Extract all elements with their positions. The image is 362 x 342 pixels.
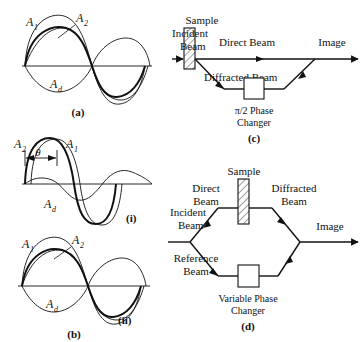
panel-a-curve-ad-upper xyxy=(25,28,148,100)
panel-c-id: (c) xyxy=(248,132,261,145)
panel-c-sample-label: Sample xyxy=(186,14,219,26)
panel-c-phase-changer-box xyxy=(244,78,264,99)
panel-a-label-ad: A xyxy=(49,77,58,91)
panel-b-i-id: (i) xyxy=(126,212,137,225)
panel-b-ii-id: (ii) xyxy=(118,314,132,327)
panel-a-curve-ad-right xyxy=(92,38,150,66)
panel-b-i-label-a1: A xyxy=(65,137,74,151)
panel-b-ii-curve-a1 xyxy=(22,237,141,324)
panel-b-ii-label-ad: A xyxy=(45,297,54,311)
panel-a-label-a1-sub: 1 xyxy=(34,23,38,32)
panel-c-diffracted-label: Diffracted Beam xyxy=(204,71,278,83)
panel-d-reference-line1: Reference xyxy=(174,252,219,264)
panel-b-ii-label-a2-sub: 2 xyxy=(80,241,84,250)
panel-b-ii-label-ad-sub: d xyxy=(54,305,59,314)
panel-a-label-a2: A xyxy=(75,11,84,25)
panel-b-i: θ A 2 A 1 A d (i) xyxy=(0,132,175,230)
panel-b-i-label-ad: A xyxy=(43,197,52,211)
panel-d-incident-line1: Incident xyxy=(170,206,206,218)
panel-d-phase-changer-line1: Variable Phase xyxy=(218,293,278,304)
panel-c-incident-line1: Incident xyxy=(172,27,208,39)
panel-d-reference-line2: Beam xyxy=(183,265,209,277)
panel-b-ii-curve-a2 xyxy=(22,249,141,317)
panel-b-ii-label-a1-sub: 1 xyxy=(30,245,34,254)
panel-c-image-label: Image xyxy=(318,36,346,48)
panel-d-phase-changer-box xyxy=(238,265,259,287)
panel-d-diffracted-line2: Beam xyxy=(281,195,307,207)
panel-c-phase-changer-line2: Changer xyxy=(237,117,272,128)
panel-c-direct-beam-arrowhead xyxy=(256,56,264,62)
panel-d-sample-slab xyxy=(238,179,249,224)
panel-c-phase-changer-line1: π/2 Phase xyxy=(235,105,274,116)
panel-d-recombine-arrowhead xyxy=(285,256,293,264)
panel-a-label-a2-sub: 2 xyxy=(84,19,88,28)
panel-a: A 1 A 2 A d (a) xyxy=(0,4,175,122)
panel-d: Sample Incident Beam Direct Beam Diffrac… xyxy=(168,150,362,342)
panel-b-ii-label-a1: A xyxy=(21,237,30,251)
panel-c-id-wrap: (c) xyxy=(172,130,362,146)
panel-c-direct-beam-label: Direct Beam xyxy=(219,36,275,48)
panel-b-i-label-a2-sub: 2 xyxy=(22,145,26,154)
panel-d-sample-label: Sample xyxy=(228,165,261,177)
panel-b-i-label-a1-sub: 1 xyxy=(74,145,78,154)
panel-b-id: (b) xyxy=(67,328,81,340)
panel-b-ii: A 1 A 2 A d (ii) (b) xyxy=(0,228,175,340)
panel-d-diffracted-line1: Diffracted xyxy=(272,182,317,194)
panel-b-i-curve-ad xyxy=(25,170,152,200)
figure-container: A 1 A 2 A d (a) θ xyxy=(0,0,362,342)
panel-c-incident-line2: Beam xyxy=(180,40,206,52)
panel-a-curve-a1 xyxy=(25,15,145,104)
panel-b-i-label-a2: A xyxy=(13,137,22,151)
panel-d-lower-arrowhead xyxy=(209,268,218,276)
panel-a-id: (a) xyxy=(72,106,85,119)
panel-b-i-theta-arrow-right xyxy=(48,155,56,161)
panel-a-label-ad-sub: d xyxy=(58,85,63,94)
panel-a-label-a1: A xyxy=(25,15,34,29)
panel-b-ii-curve-ad-right xyxy=(88,258,146,286)
panel-b-i-label-ad-sub: d xyxy=(52,205,57,214)
panel-b-ii-label-a2: A xyxy=(71,233,80,247)
panel-d-id: (d) xyxy=(241,320,255,333)
panel-c-recombine-slope xyxy=(284,59,315,89)
panel-d-diffracted-arrowhead xyxy=(277,217,286,225)
panel-a-curve-a2 xyxy=(25,27,145,97)
panel-d-phase-changer-line2: Changer xyxy=(231,305,266,316)
panel-d-direct-line1: Direct xyxy=(192,182,219,194)
panel-d-direct-line2: Beam xyxy=(193,195,219,207)
panel-b-i-theta-label: θ xyxy=(35,146,41,158)
panel-b-ii-curve-ad-upper xyxy=(22,250,144,320)
panel-d-image-label: Image xyxy=(316,220,344,232)
panel-c: Sample Incident Beam Direct Beam Image D… xyxy=(172,4,362,132)
